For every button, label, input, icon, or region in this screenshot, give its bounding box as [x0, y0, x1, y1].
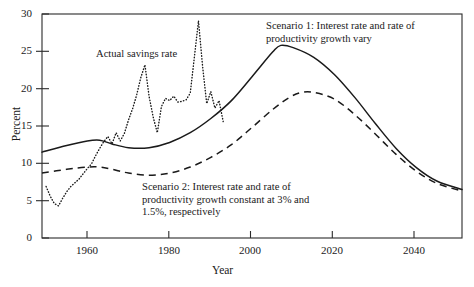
- xtick-label-1960: 1960: [64, 244, 110, 256]
- ytick-label-30: 30: [6, 7, 32, 19]
- xtick-label-2020: 2020: [309, 244, 355, 256]
- annotation-actual-savings-rate: Actual savings rate: [96, 48, 177, 61]
- xtick-label-1980: 1980: [146, 244, 192, 256]
- ytick-label-25: 25: [6, 44, 32, 56]
- x-tick-marks: [87, 231, 414, 238]
- annotation-scenario-2: Scenario 2: Interest rate and rate of pr…: [142, 181, 309, 219]
- y-tick-marks: [42, 14, 49, 238]
- x-axis-title: Year: [212, 264, 233, 276]
- annotation-scenario-1: Scenario 1: Interest rate and rate of pr…: [266, 20, 415, 45]
- ytick-label-0: 0: [6, 231, 32, 243]
- y-axis-title: Percent: [10, 89, 22, 159]
- ytick-label-5: 5: [6, 194, 32, 206]
- xtick-label-2040: 2040: [391, 244, 437, 256]
- y-tick-stubs: [36, 51, 42, 200]
- savings-rate-chart: 30 25 20 15 10 5 0 1960 1980 2000 2020 2…: [0, 0, 474, 287]
- xtick-label-2000: 2000: [227, 244, 273, 256]
